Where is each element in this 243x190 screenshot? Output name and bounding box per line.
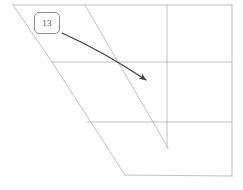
diagram-canvas: 13 [0, 0, 243, 190]
pointer-arrow [62, 33, 146, 80]
callout-label-text: 13 [42, 19, 52, 28]
callout-label-box[interactable]: 13 [34, 12, 60, 34]
